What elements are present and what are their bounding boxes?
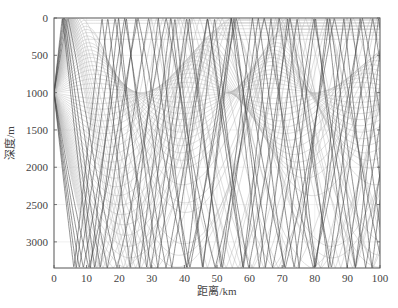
x-axis-title: 距离/km bbox=[197, 284, 237, 297]
y-tick-label: 2000 bbox=[26, 161, 49, 173]
x-tick-label: 90 bbox=[342, 272, 354, 284]
x-tick-label: 0 bbox=[51, 272, 57, 284]
x-tick-label: 100 bbox=[372, 272, 389, 284]
y-tick-label: 1500 bbox=[26, 124, 49, 136]
y-tick-label: 0 bbox=[43, 12, 49, 24]
y-tick-label: 1000 bbox=[26, 87, 49, 99]
y-tick-label: 500 bbox=[32, 49, 49, 61]
x-tick-label: 40 bbox=[179, 272, 191, 284]
x-tick-label: 20 bbox=[114, 272, 126, 284]
y-tick-label: 3000 bbox=[26, 236, 49, 248]
ray-trace-chart: 0102030405060708090100 05001000150020002… bbox=[0, 0, 398, 308]
y-tick-label: 2500 bbox=[26, 199, 49, 211]
x-tick-label: 30 bbox=[146, 272, 158, 284]
x-tick-label: 60 bbox=[244, 272, 256, 284]
x-tick-label: 10 bbox=[81, 272, 93, 284]
x-tick-label: 70 bbox=[277, 272, 289, 284]
x-tick-label: 50 bbox=[212, 272, 224, 284]
y-axis-title: 深度/m bbox=[3, 126, 16, 160]
x-tick-label: 80 bbox=[309, 272, 321, 284]
